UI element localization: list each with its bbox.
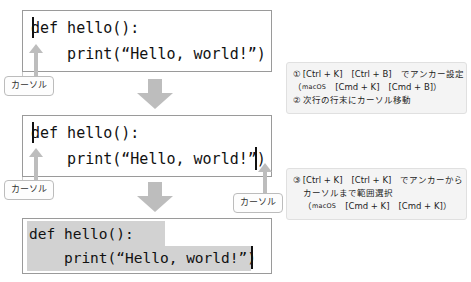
annotation-line-3-text: 次行の行末にカーソル移動 [303,95,411,105]
annotation-line-3: （macOS [Cmd + K] [Cmd + K]） [293,200,459,213]
code-block-2-content: def hello(): print(“Hello, world!”) [23,116,271,176]
code-line-2: print(“Hello, world!”) [29,245,256,271]
annotation-line-1-text: [Ctrl + K] [Ctrl + B] でアンカー設定 [303,69,464,79]
step-marker-2: ② [293,94,301,107]
flow-arrow-down-1 [137,79,173,109]
annotation-panel-2: ③[Ctrl + K] [Ctrl + K] でアンカーから カーソルまで範囲選… [286,168,467,220]
code-line-1: def hello(): [31,120,139,146]
annotation-line-2: （macOS [Cmd + K] [Cmd + B]） [293,81,459,94]
code-line-2: print(“Hello, world!”) [31,41,266,67]
annotation-line-1: ①[Ctrl + K] [Ctrl + B] でアンカー設定 [293,68,459,81]
annotation-panel-1: ①[Ctrl + K] [Ctrl + B] でアンカー設定 （macOS [C… [286,62,467,114]
cursor-label-3: カーソル [233,193,283,213]
code-block-3: def hello(): print(“Hello, world!”) [22,218,272,274]
cursor-pointer-arrow-3 [258,163,272,193]
annotation-line-2-text: [Cmd + K] [Cmd + B]） [326,82,442,92]
code-block-1: def hello(): print(“Hello, world!”) [22,10,272,72]
macos-tag: macOS [312,202,336,210]
cursor-label-1: カーソル [4,76,54,96]
code-block-2: def hello(): print(“Hello, world!”) [22,115,272,177]
paren-open: （ [303,201,312,211]
macos-tag: macOS [302,83,326,91]
step-marker-1: ① [293,68,301,81]
cursor-pointer-arrow-1 [29,44,43,76]
annotation-line-3: ②次行の行末にカーソル移動 [293,94,459,107]
text-caret-end [255,147,257,170]
code-line-2: print(“Hello, world!”) [31,146,266,172]
step-marker-3: ③ [293,174,301,187]
paren-open: （ [293,82,302,92]
text-caret-end [251,246,253,269]
annotation-line-1: ③[Ctrl + K] [Ctrl + K] でアンカーから [293,174,459,187]
flow-arrow-down-2 [137,182,173,212]
code-line-1: def hello(): [29,221,134,247]
cursor-pointer-arrow-2 [29,148,43,180]
annotation-line-3-text: [Cmd + K] [Cmd + K]） [336,201,452,211]
code-line-1: def hello(): [31,15,139,41]
cursor-label-2: カーソル [4,180,54,200]
code-block-1-content: def hello(): print(“Hello, world!”) [23,11,271,71]
annotation-line-1-text: [Ctrl + K] [Ctrl + K] でアンカーから [303,175,464,185]
code-block-3-content: def hello(): print(“Hello, world!”) [23,219,271,273]
annotation-line-2: カーソルまで範囲選択 [293,187,459,200]
